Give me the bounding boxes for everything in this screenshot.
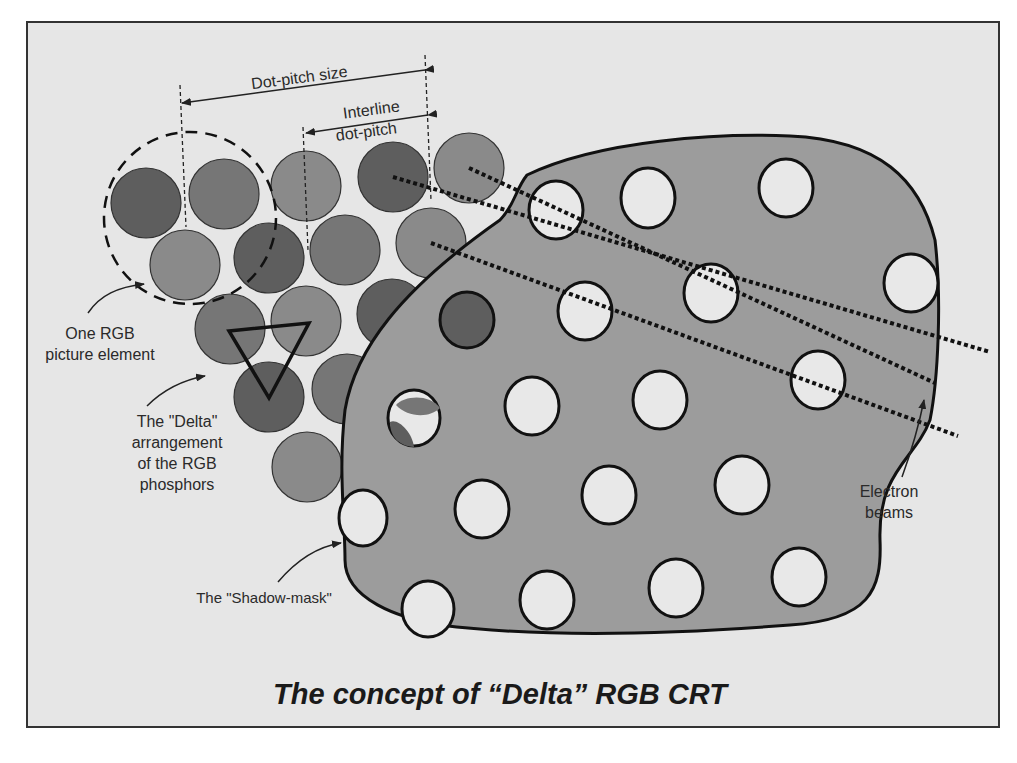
shadow-mask-hole [520, 571, 574, 629]
phosphor-dot [310, 215, 380, 285]
phosphor-dot [234, 223, 304, 293]
shadow-mask-hole [440, 292, 494, 348]
shadow-mask-label: The "Shadow-mask" [196, 589, 332, 606]
delta-crt-diagram: Dot-pitch size Interline dot-pitch One R… [0, 0, 1017, 763]
phosphor-dot [150, 230, 220, 300]
phosphor-dot [272, 432, 342, 502]
shadow-mask-hole [621, 168, 675, 228]
delta-arrangement-label-line2: arrangement [132, 434, 223, 451]
shadow-mask-hole [649, 559, 703, 617]
shadow-mask-hole [455, 480, 509, 538]
phosphor-dot [111, 168, 181, 238]
phosphor-dot [189, 159, 259, 229]
rgb-picture-element-label-line2: picture element [45, 346, 155, 363]
shadow-mask-hole [402, 581, 454, 637]
diagram-title: The concept of “Delta” RGB CRT [273, 678, 729, 710]
shadow-mask-hole [505, 377, 559, 435]
rgb-picture-element-label-line1: One RGB [65, 325, 134, 342]
electron-beams-label-line1: Electron [860, 483, 919, 500]
delta-arrangement-label-line3: of the RGB [137, 455, 216, 472]
shadow-mask-hole [791, 351, 845, 409]
shadow-mask-hole [884, 254, 938, 312]
delta-arrangement-label-line1: The "Delta" [137, 413, 218, 430]
electron-beams-label-line2: beams [865, 504, 913, 521]
shadow-mask-hole [633, 371, 687, 429]
shadow-mask-hole [339, 490, 387, 546]
shadow-mask-hole [715, 456, 769, 514]
shadow-mask-hole [759, 159, 813, 217]
phosphor-dot [271, 286, 341, 356]
shadow-mask-hole [772, 548, 826, 606]
shadow-mask-hole [582, 466, 636, 524]
delta-arrangement-label-line4: phosphors [140, 476, 215, 493]
